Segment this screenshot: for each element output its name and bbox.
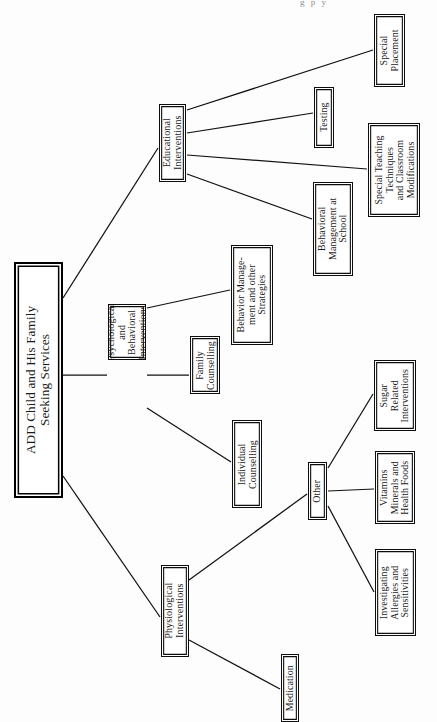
node-educational[interactable]: Educational Interventions bbox=[159, 104, 186, 182]
diagram-canvas: g p y ADD Child and His Family Seeking S… bbox=[0, 0, 437, 722]
page-header-fragment: g p y bbox=[300, 0, 328, 7]
node-label-medication: Medication bbox=[285, 665, 296, 711]
edge-educational-to-behavioral-school bbox=[187, 174, 312, 219]
node-label-individual-counselling: Individual Counselling bbox=[237, 440, 258, 489]
edge-educational-to-testing bbox=[187, 113, 313, 133]
node-label-behavior-strategies: Behavior Manage- ment and other Strategi… bbox=[236, 257, 268, 332]
node-root[interactable]: ADD Child and His Family Seeking Service… bbox=[14, 262, 63, 498]
node-label-testing: Testing bbox=[319, 103, 330, 133]
node-testing[interactable]: Testing bbox=[314, 87, 334, 148]
node-label-allergies: Investigating Allergies and Sensitivitie… bbox=[380, 565, 412, 619]
edge-educational-to-special-placement bbox=[187, 50, 373, 110]
node-individual-counselling[interactable]: Individual Counselling bbox=[232, 420, 262, 508]
edge-root-to-physiological bbox=[63, 476, 160, 617]
node-label-other: Other bbox=[312, 480, 323, 503]
node-label-family-counselling: Family Counselling bbox=[195, 341, 216, 390]
node-label-sugar: Sugar Related Interventions bbox=[379, 369, 411, 422]
node-label-behavioral-school: Behavioral Management at School bbox=[317, 198, 349, 260]
node-label-root: ADD Child and His Family Seeking Service… bbox=[25, 306, 53, 454]
node-label-vitamins: Vitamins Minerals and Health Foods bbox=[379, 460, 411, 514]
node-behavioral-school[interactable]: Behavioral Management at School bbox=[313, 182, 353, 276]
edge-other-to-allergies bbox=[328, 506, 374, 592]
node-label-psychological: Psychological and Behavioral Interventio… bbox=[108, 304, 146, 360]
node-medication[interactable]: Medication bbox=[281, 654, 299, 722]
edge-physiological-to-medication bbox=[189, 640, 280, 689]
edge-psychological-to-individual-counselling bbox=[147, 408, 231, 462]
edge-educational-to-special-teaching bbox=[187, 155, 367, 169]
node-label-special-teaching: Special Teaching Techniques and Classroo… bbox=[373, 135, 415, 204]
edge-other-to-vitamins bbox=[328, 489, 374, 491]
node-label-educational: Educational Interventions bbox=[162, 116, 183, 171]
node-special-placement[interactable]: Special Placement bbox=[374, 14, 405, 87]
node-behavior-strategies[interactable]: Behavior Manage- ment and other Strategi… bbox=[231, 245, 273, 345]
node-psychological[interactable]: Psychological and Behavioral Interventio… bbox=[108, 304, 146, 360]
node-special-teaching[interactable]: Special Teaching Techniques and Classroo… bbox=[368, 123, 420, 217]
node-label-physiological: Physiological Interventions bbox=[164, 583, 185, 639]
node-vitamins[interactable]: Vitamins Minerals and Health Foods bbox=[375, 451, 415, 524]
node-sugar[interactable]: Sugar Related Interventions bbox=[374, 360, 416, 431]
edge-root-to-educational bbox=[63, 148, 158, 298]
edge-psychological-to-behavior-strategies bbox=[147, 290, 230, 308]
edge-other-to-sugar bbox=[328, 394, 373, 468]
node-label-special-placement: Special Placement bbox=[379, 29, 400, 71]
node-family-counselling[interactable]: Family Counselling bbox=[190, 336, 220, 394]
node-physiological[interactable]: Physiological Interventions bbox=[161, 565, 189, 657]
node-allergies[interactable]: Investigating Allergies and Sensitivitie… bbox=[375, 549, 416, 636]
node-other[interactable]: Other bbox=[308, 462, 327, 520]
